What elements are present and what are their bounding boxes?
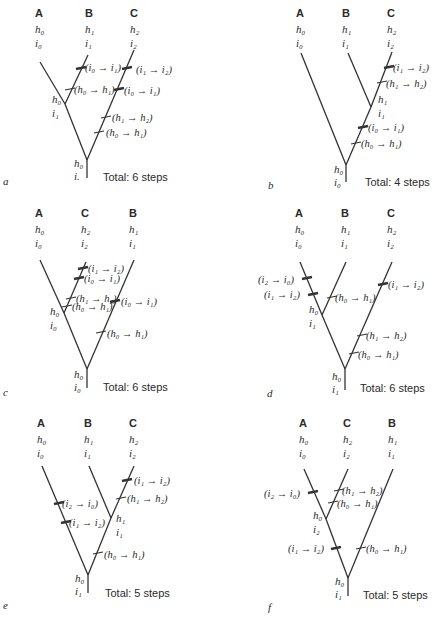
character-change-label: (h₀ → h₁) <box>107 329 148 339</box>
panel-letter: d <box>267 388 273 398</box>
taxon-state-h: h₂ <box>343 434 352 444</box>
taxon-state-i: i₁ <box>341 238 348 248</box>
change-tick-mark <box>331 547 341 549</box>
character-change-label: (i₂ → i₀) <box>264 489 300 499</box>
character-change-label: (i₀ → i₁) <box>121 297 157 307</box>
character-change-label: (i₀ → i₁) <box>368 123 404 133</box>
taxon-state-h: h₀ <box>35 224 44 234</box>
taxon-state-h: h₁ <box>388 434 397 444</box>
internal-node-state-i: i₁ <box>309 318 316 328</box>
change-tick-mark <box>308 491 318 493</box>
panel-letter: e <box>3 600 8 610</box>
branch-internal <box>346 107 371 165</box>
character-change-label: (h₀ → h₁) <box>106 128 147 138</box>
taxon-label-a: A <box>299 418 307 428</box>
taxon-state-h: h₂ <box>81 224 90 234</box>
taxon-state-h: h₁ <box>85 24 94 34</box>
panel-letter: a <box>3 176 9 186</box>
taxon-state-i: i₂ <box>343 448 350 458</box>
cladogram-panel-c: Ah₀i₀Ch₂i₂Bh₁i₁h₀i₀h₀i₀(i₁ → i₂)(i₀ → i₁… <box>0 200 219 405</box>
internal-node-state-i: i₁ <box>52 108 59 118</box>
taxon-state-i: i₁ <box>342 38 349 48</box>
taxon-state-i: i₂ <box>81 238 88 248</box>
tree-branches <box>218 200 437 405</box>
internal-node-state-h: h₀ <box>313 510 322 520</box>
taxon-label-b: B <box>129 208 137 218</box>
character-change-label: (h₁ → h₂) <box>366 331 407 341</box>
taxon-label-a: A <box>296 8 304 18</box>
root-state-h: h₀ <box>334 164 343 174</box>
change-tick-mark <box>122 479 132 481</box>
taxon-state-i: i₂ <box>387 38 394 48</box>
taxon-state-h: h₁ <box>129 224 138 234</box>
branch-b <box>348 53 371 107</box>
taxon-state-i: i₁ <box>129 238 136 248</box>
cladogram-panel-d: Ah₀i₀Bh₁i₁Ch₂i₂h₀i₁h₀i₁(i₂ → i₀)(i₁ → i₂… <box>218 200 437 405</box>
total-steps-label: Total: 6 steps <box>103 172 168 182</box>
taxon-label-b: B <box>388 418 396 428</box>
tree-branches <box>0 410 219 615</box>
taxon-state-i: i₀ <box>35 38 42 48</box>
tree-branches <box>218 0 437 205</box>
taxon-label-a: A <box>37 418 45 428</box>
taxon-state-i: i₀ <box>299 448 306 458</box>
taxon-state-i: i₂ <box>129 448 136 458</box>
internal-node-state-i: i₁ <box>116 527 123 537</box>
change-tick-mark <box>378 283 388 285</box>
change-tick-mark <box>78 267 88 269</box>
taxon-state-h: h₁ <box>341 224 350 234</box>
internal-node-state-i: i₂ <box>313 524 320 534</box>
character-change-label: (i₁ → i₂) <box>264 290 300 300</box>
panel-letter: b <box>268 180 274 190</box>
internal-node-state-h: h₁ <box>378 94 387 104</box>
branch-internal <box>64 313 87 369</box>
panel-letter: f <box>268 602 271 612</box>
taxon-label-c: C <box>387 8 395 18</box>
taxon-state-h: h₀ <box>295 224 304 234</box>
taxon-state-h: h₀ <box>299 434 308 444</box>
internal-node-state-h: h₀ <box>309 304 318 314</box>
change-tick-mark <box>114 88 124 90</box>
change-tick-mark <box>116 497 126 499</box>
branch-internal <box>322 315 345 369</box>
character-change-label: (i₁ → i₂) <box>393 63 429 73</box>
taxon-label-c: C <box>130 8 138 18</box>
total-steps-label: Total: 4 steps <box>365 177 430 187</box>
branch-b <box>89 466 111 518</box>
taxon-label-a: A <box>295 208 303 218</box>
taxon-state-i: i₀ <box>296 38 303 48</box>
internal-node-state-h: h₀ <box>50 306 59 316</box>
taxon-state-i: i₁ <box>85 38 92 48</box>
character-change-label: (h₀ → h₁) <box>335 293 376 303</box>
root-state-i: i₁ <box>335 589 342 599</box>
taxon-state-h: h₁ <box>342 24 351 34</box>
total-steps-label: Total: 6 steps <box>360 383 425 393</box>
change-tick-mark <box>302 277 312 279</box>
character-change-label: (h₀ → h₁) <box>361 139 402 149</box>
taxon-label-c: C <box>387 208 395 218</box>
taxon-label-c: C <box>343 418 351 428</box>
character-change-label: (i₁ → i₂) <box>134 476 170 486</box>
taxon-state-h: h₀ <box>37 434 46 444</box>
taxon-label-b: B <box>84 418 92 428</box>
taxon-label-b: B <box>342 8 350 18</box>
character-change-label: (h₁ → h₂) <box>127 494 168 504</box>
character-change-label: (i₀ → i₁) <box>84 274 120 284</box>
root-state-i: i₀ <box>334 177 341 187</box>
internal-node-state-h: h₀ <box>52 94 61 104</box>
character-change-label: (i₁ → i₂) <box>388 280 424 290</box>
root-state-i: i. <box>74 171 80 181</box>
character-change-label: (h₀ → h₁) <box>72 302 113 312</box>
root-state-h: h₀ <box>74 158 83 168</box>
taxon-state-h: h₀ <box>35 24 44 34</box>
character-change-label: (i₂ → i₀) <box>258 275 294 285</box>
character-change-label: (i₁ → i₂) <box>69 518 105 528</box>
character-change-label: (h₀ → h₁) <box>74 85 115 95</box>
change-tick-mark <box>74 277 84 279</box>
character-change-label: (i₁ → i₂) <box>288 544 324 554</box>
character-change-label: (h₁ → h₂) <box>386 79 427 89</box>
character-change-label: (i₁ → i₂) <box>136 65 172 75</box>
change-tick-mark <box>96 331 106 333</box>
character-change-label: (h₁ → h₂) <box>112 113 153 123</box>
taxon-state-h: h₂ <box>387 24 396 34</box>
